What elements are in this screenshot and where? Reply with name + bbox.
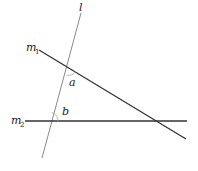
angle-label-a: a [69, 76, 76, 89]
angle-label-b: b [62, 105, 69, 118]
label-m2-subscript: 2 [20, 121, 24, 129]
label-m1-subscript: 1 [35, 48, 39, 56]
transversal-diagram: l m 1 m 2 a b [0, 0, 198, 171]
line-m1 [39, 50, 186, 139]
label-l: l [79, 1, 83, 14]
